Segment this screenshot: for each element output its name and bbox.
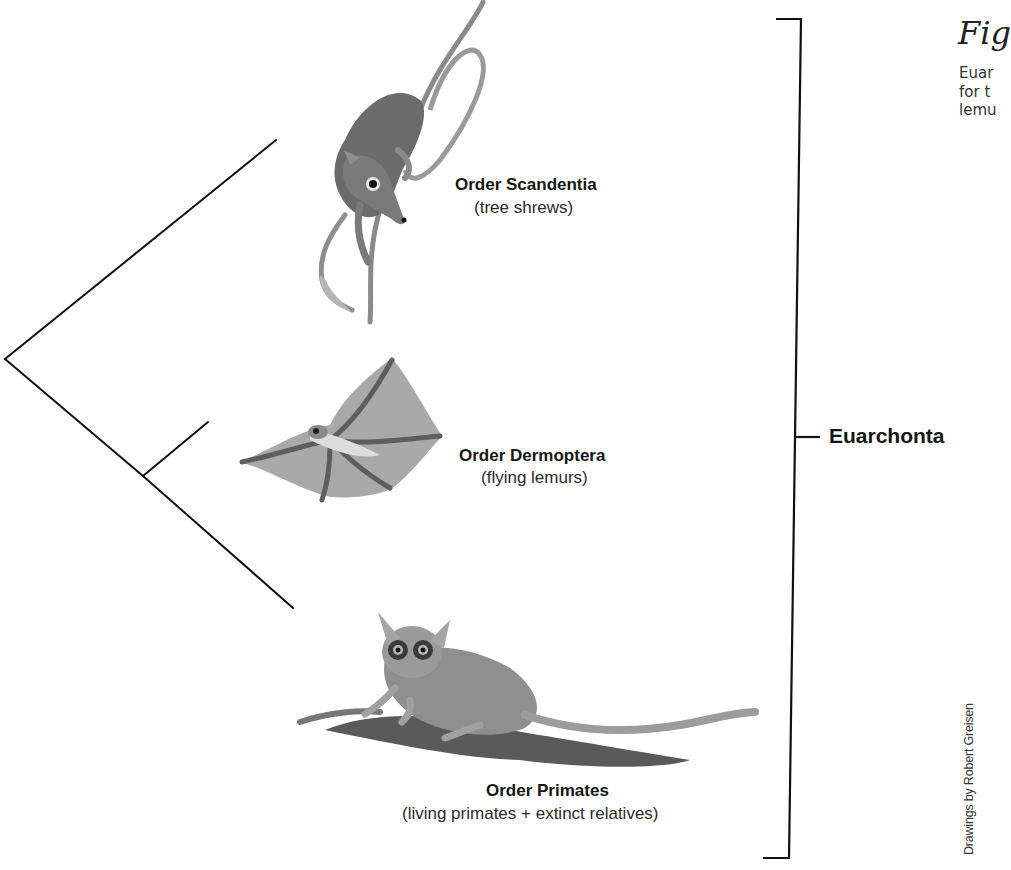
- taxon-label-dermoptera: Order Dermoptera: [459, 446, 605, 466]
- taxon-common-name-dermoptera: (flying lemurs): [481, 468, 588, 488]
- figure-label: Fig: [958, 14, 1011, 52]
- tree-shrew-illustration: [320, 2, 484, 322]
- bushbaby-illustration: [300, 612, 755, 767]
- caption-line-3: lemu: [959, 101, 997, 119]
- branch-primates: [143, 476, 293, 608]
- caption-line-2: for t: [959, 83, 990, 101]
- tree-branches: [5, 140, 293, 608]
- euarchonta-bracket: [763, 19, 820, 858]
- taxon-common-name-scandentia: (tree shrews): [474, 198, 573, 218]
- caption-line-1: Euar: [959, 64, 993, 82]
- taxon-label-scandentia: Order Scandentia: [455, 175, 597, 195]
- illustration-credit: Drawings by Robert Greisen: [962, 703, 976, 855]
- flying-lemur-illustration: [240, 358, 442, 500]
- taxon-label-primates: Order Primates: [486, 781, 609, 801]
- branch-root-to-node: [5, 359, 143, 476]
- taxon-common-name-primates: (living primates + extinct relatives): [402, 804, 659, 824]
- clade-label-euarchonta: Euarchonta: [829, 424, 945, 448]
- branch-dermoptera: [143, 422, 208, 476]
- branch-scandentia: [5, 140, 276, 359]
